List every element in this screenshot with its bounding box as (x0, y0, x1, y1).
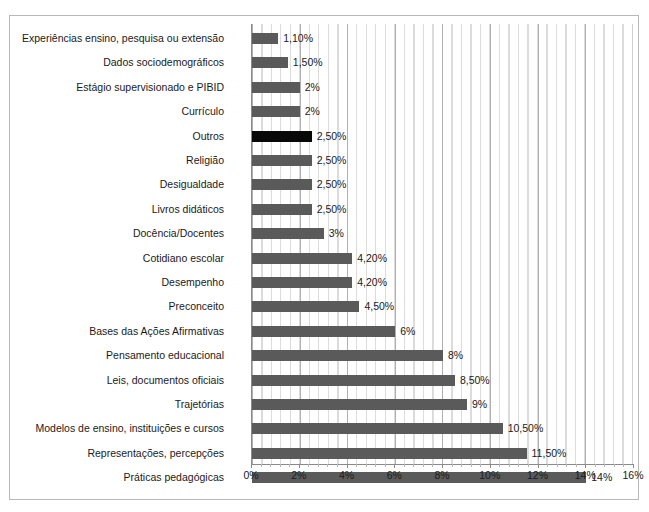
x-tick-minor (318, 464, 319, 467)
bar-row: Currículo2% (10, 99, 638, 123)
bar-value-label: 8% (448, 343, 463, 367)
category-label: Desigualdade (160, 172, 224, 196)
bar (252, 253, 352, 264)
bar-value-label: 2,50% (317, 172, 347, 196)
bar-highlighted (252, 131, 312, 142)
x-tick-minor (289, 464, 290, 467)
bar-value-label: 11,50% (532, 441, 567, 465)
x-tick-minor (385, 464, 386, 467)
category-label: Representações, percepções (87, 441, 224, 465)
category-label: Outros (192, 124, 224, 148)
x-tick-minor (280, 464, 281, 467)
x-tick-major (442, 464, 443, 468)
bar-value-label: 3% (329, 221, 344, 245)
x-tick-minor (518, 464, 519, 467)
x-tick-label: 10% (479, 469, 500, 481)
bar-value-label: 1,50% (293, 50, 323, 74)
x-tick-minor (461, 464, 462, 467)
bar-row: Estágio supervisionado e PIBID2% (10, 75, 638, 99)
category-label: Currículo (181, 99, 224, 123)
category-label: Modelos de ensino, instituições e cursos (35, 416, 224, 440)
x-tick-minor (576, 464, 577, 467)
x-tick-minor (471, 464, 472, 467)
x-tick-minor (366, 464, 367, 467)
bar (252, 179, 312, 190)
bar-value-label: 2% (305, 75, 320, 99)
bar-value-label: 6% (400, 319, 415, 343)
bar-value-label: 2,50% (317, 124, 347, 148)
bar-row: Docência/Docentes3% (10, 221, 638, 245)
bar-value-label: 4,50% (364, 294, 394, 318)
category-label: Trajetórias (175, 392, 224, 416)
x-tick-minor (337, 464, 338, 467)
x-tick-minor (261, 464, 262, 467)
bar-row: Trajetórias9% (10, 392, 638, 416)
x-tick-minor (566, 464, 567, 467)
x-tick-minor (413, 464, 414, 467)
x-tick-label: 4% (339, 469, 354, 481)
bar-row: Modelos de ensino, instituições e cursos… (10, 416, 638, 440)
bar-value-label: 1,10% (283, 26, 313, 50)
bar (252, 228, 324, 239)
bar (252, 375, 455, 386)
bar (252, 33, 278, 44)
x-tick-label: 12% (527, 469, 548, 481)
category-label: Desempenho (162, 270, 224, 294)
bar-row: Outros2,50% (10, 124, 638, 148)
bar (252, 350, 443, 361)
bar (252, 326, 395, 337)
x-tick-major (347, 464, 348, 468)
category-label: Preconceito (169, 294, 224, 318)
bar (252, 399, 467, 410)
x-tick-major (585, 464, 586, 468)
category-label: Estágio supervisionado e PIBID (76, 75, 224, 99)
x-tick-minor (432, 464, 433, 467)
x-tick-minor (528, 464, 529, 467)
bar-row: Representações, percepções11,50% (10, 441, 638, 465)
x-tick-minor (595, 464, 596, 467)
x-tick-minor (423, 464, 424, 467)
bar (252, 301, 359, 312)
bar (252, 155, 312, 166)
x-tick-major (299, 464, 300, 468)
x-tick-minor (499, 464, 500, 467)
x-tick-minor (480, 464, 481, 467)
bar (252, 448, 527, 459)
x-tick-major (490, 464, 491, 468)
bar-row: Religião2,50% (10, 148, 638, 172)
bar-row: Desempenho4,20% (10, 270, 638, 294)
category-label: Livros didáticos (152, 197, 224, 221)
chart-frame: Experiências ensino, pesquisa ou extensã… (9, 15, 639, 500)
x-tick-major (538, 464, 539, 468)
bar-value-label: 10,50% (508, 416, 544, 440)
x-tick-minor (375, 464, 376, 467)
x-tick-minor (452, 464, 453, 467)
bar (252, 106, 300, 117)
x-tick-minor (557, 464, 558, 467)
bar-row: Leis, documentos oficiais8,50% (10, 368, 638, 392)
bar-value-label: 2,50% (317, 148, 347, 172)
bar-value-label: 4,20% (357, 246, 387, 270)
category-label: Docência/Docentes (133, 221, 224, 245)
x-tick-minor (547, 464, 548, 467)
category-label: Experiências ensino, pesquisa ou extensã… (22, 26, 224, 50)
bar (252, 277, 352, 288)
x-tick-minor (509, 464, 510, 467)
category-label: Cotidiano escolar (143, 246, 224, 270)
category-label: Religião (186, 148, 224, 172)
category-label: Dados sociodemográficos (103, 50, 224, 74)
bar-row: Livros didáticos2,50% (10, 197, 638, 221)
bar-row: Desigualdade2,50% (10, 172, 638, 196)
x-tick-major (633, 464, 634, 468)
x-tick-minor (327, 464, 328, 467)
x-tick-minor (614, 464, 615, 467)
bar-value-label: 4,20% (357, 270, 387, 294)
category-label: Bases das Ações Afirmativas (89, 319, 224, 343)
x-tick-label: 8% (434, 469, 449, 481)
bar-value-label: 2% (305, 99, 320, 123)
category-label: Leis, documentos oficiais (107, 368, 224, 392)
x-tick-label: 0% (243, 469, 258, 481)
bar-value-label: 8,50% (460, 368, 490, 392)
category-label: Pensamento educacional (106, 343, 224, 367)
x-tick-minor (356, 464, 357, 467)
